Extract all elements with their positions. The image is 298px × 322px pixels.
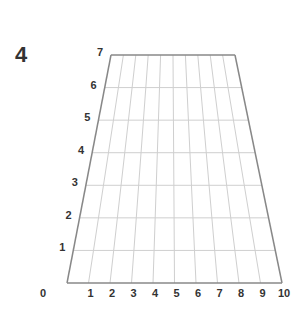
grid-vertical-line (110, 55, 136, 283)
x-axis-label: 4 (152, 287, 159, 299)
x-axis-label: 1 (87, 287, 93, 299)
y-axis-label: 1 (59, 241, 65, 253)
x-axis-label: 2 (109, 287, 115, 299)
grid-vertical-line (153, 55, 161, 283)
x-axis-label: 7 (216, 287, 222, 299)
y-axis-label: 7 (97, 46, 103, 58)
x-axis-label: 8 (238, 287, 244, 299)
perspective-grid: 0123456789101234567 (0, 0, 298, 322)
x-axis-label: 9 (259, 287, 265, 299)
x-axis-label: 5 (173, 287, 179, 299)
grid-border-left (67, 55, 111, 283)
x-axis-label: 6 (195, 287, 201, 299)
y-axis-label: 6 (91, 79, 97, 91)
x-axis-label: 0 (40, 287, 46, 299)
grid-vertical-line (173, 55, 175, 283)
grid-vertical-line (185, 55, 196, 283)
y-axis-label: 4 (78, 144, 85, 156)
x-axis-label: 10 (278, 287, 290, 299)
grid-vertical-line (132, 55, 149, 283)
y-axis-label: 5 (84, 111, 90, 123)
y-axis-label: 2 (65, 209, 71, 221)
y-axis-label: 3 (72, 176, 78, 188)
x-axis-label: 3 (130, 287, 136, 299)
